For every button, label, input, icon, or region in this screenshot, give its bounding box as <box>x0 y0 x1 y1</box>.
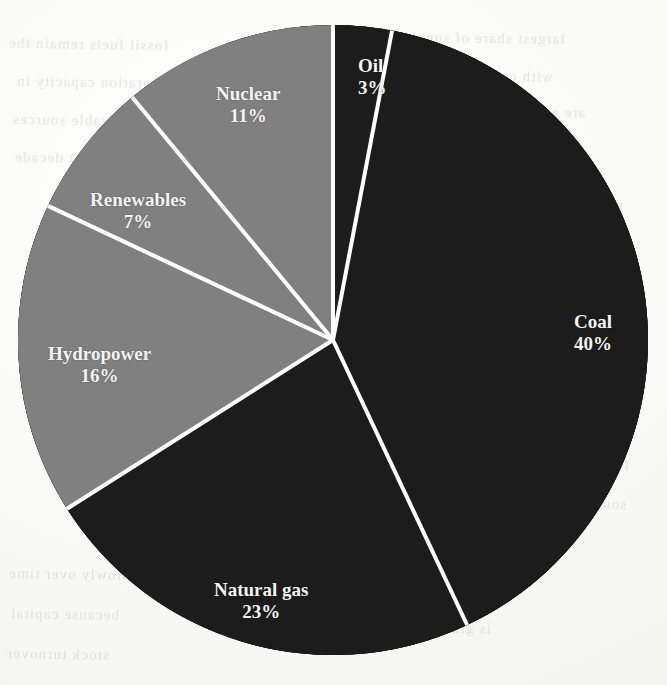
slice-label-nuclear-value: 11% <box>216 105 280 127</box>
slice-label-renewables-name: Renewables <box>90 189 186 210</box>
slice-label-oil-name: Oil <box>358 55 383 76</box>
slice-label-hydropower: Hydropower 16% <box>48 343 151 388</box>
slice-label-renewables-value: 7% <box>90 211 186 233</box>
slice-label-nuclear: Nuclear 11% <box>216 83 280 128</box>
slice-label-renewables: Renewables 7% <box>90 189 186 234</box>
slice-label-coal: Coal 40% <box>574 311 612 356</box>
slice-label-coal-value: 40% <box>574 333 612 355</box>
slice-label-nuclear-name: Nuclear <box>216 83 280 104</box>
pie-chart-svg <box>18 25 648 655</box>
pie-chart: Oil 3% Coal 40% Natural gas 23% Hydropow… <box>18 25 648 655</box>
slice-label-natural-gas: Natural gas 23% <box>214 579 308 624</box>
slice-label-coal-name: Coal <box>574 311 612 332</box>
pie-slices-group <box>18 25 648 655</box>
slice-label-oil: Oil 3% <box>358 55 387 100</box>
slice-label-hydropower-value: 16% <box>48 365 151 387</box>
slice-label-natural-gas-name: Natural gas <box>214 579 308 600</box>
slice-label-natural-gas-value: 23% <box>214 601 308 623</box>
pie-chart-page: fossil fuels remain thelargest share of … <box>0 0 667 685</box>
slice-label-oil-value: 3% <box>358 77 387 99</box>
slice-label-hydropower-name: Hydropower <box>48 343 151 364</box>
